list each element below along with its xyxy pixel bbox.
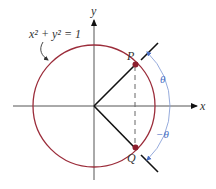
terminal-side-theta	[141, 43, 158, 60]
equation-label: x² + y² = 1	[28, 27, 81, 41]
angle-neg-theta-label: −θ	[156, 128, 169, 140]
x-axis-label: x	[199, 99, 206, 113]
point-q-label: Q	[127, 151, 136, 165]
ray-to-p	[94, 65, 135, 106]
point-q	[133, 145, 139, 151]
y-axis-label: y	[90, 4, 97, 18]
ray-to-q	[94, 106, 135, 148]
point-p-label: P	[126, 49, 135, 63]
equation-pointer-arrow	[41, 42, 48, 60]
unit-circle-diagram: x² + y² = 1 y x P Q θ −θ	[0, 0, 216, 189]
angle-theta-label: θ	[160, 73, 166, 85]
angle-arc-theta	[147, 52, 170, 106]
